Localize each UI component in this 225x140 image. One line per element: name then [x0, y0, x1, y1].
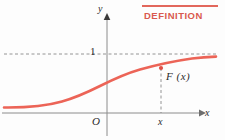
definition-rule-divider	[142, 5, 218, 7]
y-axis-arrowhead-icon	[104, 13, 111, 20]
function-value-label: F (x)	[166, 71, 190, 82]
origin-label: O	[92, 116, 100, 127]
definition-figure-panel: y x 1 O x F (x) DEFINITION	[0, 0, 225, 140]
marked-point-dot	[159, 66, 163, 70]
x-axis-label: x	[205, 108, 209, 118]
function-graph	[0, 0, 225, 140]
definition-callout: DEFINITION	[142, 5, 218, 21]
asymptote-value-label: 1	[90, 46, 96, 57]
x-tick-label: x	[158, 117, 162, 127]
definition-heading: DEFINITION	[142, 10, 218, 21]
y-axis-label: y	[98, 4, 102, 14]
cdf-curve	[4, 57, 216, 108]
